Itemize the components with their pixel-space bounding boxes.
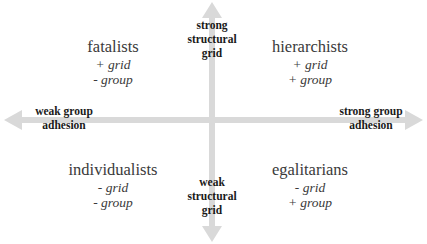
quadrant-fatalists: fatalists + grid - group <box>43 38 183 88</box>
axis-label-line: weak group <box>26 105 102 119</box>
quadrant-grid-attr: + grid <box>240 57 380 73</box>
quadrant-title: egalitarians <box>240 161 380 180</box>
quadrant-group-attr: - group <box>43 195 183 211</box>
axis-label-line: strong group <box>326 105 416 119</box>
quadrant-title: individualists <box>43 161 183 180</box>
quadrant-title: hierarchists <box>240 38 380 57</box>
axis-label-strong-group: strong group adhesion <box>326 105 416 133</box>
quadrant-hierarchists: hierarchists + grid + group <box>240 38 380 88</box>
axis-label-line: strong <box>172 19 252 33</box>
quadrant-group-attr: + group <box>240 72 380 88</box>
arrow-left-icon <box>4 110 22 130</box>
axis-label-weak-group: weak group adhesion <box>26 105 102 133</box>
quadrant-title: fatalists <box>43 38 183 57</box>
quadrant-grid-attr: - grid <box>240 180 380 196</box>
quadrant-grid-attr: - grid <box>43 180 183 196</box>
quadrant-group-attr: - group <box>43 72 183 88</box>
quadrant-individualists: individualists - grid - group <box>43 161 183 211</box>
quadrant-grid-attr: + grid <box>43 57 183 73</box>
arrow-up-icon <box>202 2 222 18</box>
axis-label-line: adhesion <box>26 119 102 133</box>
axis-label-line: adhesion <box>326 119 416 133</box>
arrow-down-icon <box>202 226 222 242</box>
quadrant-group-attr: + group <box>240 195 380 211</box>
quadrant-egalitarians: egalitarians - grid + group <box>240 161 380 211</box>
